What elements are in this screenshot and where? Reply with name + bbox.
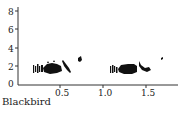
x-label-1-5: 1.5 xyxy=(141,88,156,98)
x-tick-labels: 0.5 1.0 1.5 xyxy=(55,88,156,98)
y-tick-labels: 8 6 4 2 0 xyxy=(8,7,14,89)
y-label-0: 0 xyxy=(8,79,14,89)
x-label-1-0: 1.0 xyxy=(98,88,113,98)
y-label-2: 2 xyxy=(8,62,14,72)
chart-caption: Blackbird xyxy=(2,96,51,107)
y-label-4: 4 xyxy=(8,44,14,54)
x-label-0-5: 0.5 xyxy=(55,88,70,98)
y-label-6: 6 xyxy=(8,25,14,35)
phrase-2 xyxy=(110,57,163,74)
y-label-8: 8 xyxy=(8,7,14,17)
phrase-1 xyxy=(33,56,82,74)
